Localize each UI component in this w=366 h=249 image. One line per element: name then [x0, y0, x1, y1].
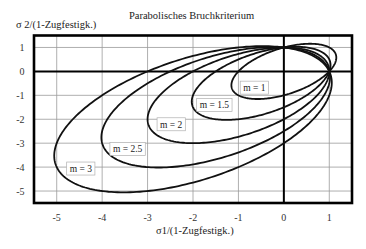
series-label-text: m = 2.5 [113, 144, 143, 154]
y-tick-label: 1 [20, 42, 25, 53]
series-label-4: m = 3 [67, 162, 95, 175]
chart-title: Parabolisches Bruchkriterium [129, 10, 254, 21]
x-tick-label: -5 [53, 212, 61, 223]
x-tick-label: -4 [98, 212, 106, 223]
series-label-3: m = 2.5 [110, 142, 145, 155]
x-tick-label: -3 [143, 212, 151, 223]
chart: Parabolisches Bruchkriterium σ 2/(1-Zugf… [0, 0, 366, 249]
y-tick-label: -4 [16, 162, 24, 173]
y-tick-label: -3 [16, 138, 24, 149]
y-tick-label: -2 [16, 114, 24, 125]
series-label-0: m = 1 [240, 81, 268, 94]
series-label-text: m = 2 [160, 120, 182, 130]
series-label-text: m = 3 [70, 164, 92, 174]
x-axis-title: σ1/(1-Zugfestigk.) [156, 225, 234, 237]
x-tick-label: 0 [281, 212, 286, 223]
y-axis-title: σ 2/(1-Zugfestigk.) [16, 19, 97, 31]
x-tick-label: 1 [327, 212, 332, 223]
x-tick-label: -1 [234, 212, 242, 223]
y-tick-label: -1 [16, 90, 24, 101]
x-tick-label: -2 [189, 212, 197, 223]
y-tick-label: 0 [20, 66, 25, 77]
series-label-2: m = 2 [157, 118, 185, 131]
series-label-text: m = 1 [243, 83, 265, 93]
series-label-1: m = 1.5 [197, 98, 232, 111]
y-tick-label: -5 [16, 186, 24, 197]
series-label-text: m = 1.5 [200, 100, 230, 110]
